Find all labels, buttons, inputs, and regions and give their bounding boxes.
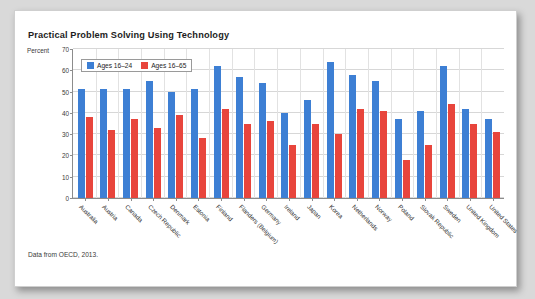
y-axis-tick-mark (70, 177, 73, 178)
y-axis-tick-label: 40 (62, 109, 69, 116)
y-axis-tick-mark (70, 198, 73, 199)
bar-group (436, 49, 459, 198)
bar-young[interactable] (123, 89, 130, 198)
bar-all[interactable] (312, 124, 319, 199)
bar-group (323, 49, 346, 198)
chart-card: Practical Problem Solving Using Technolo… (14, 10, 517, 287)
y-axis-tick-mark (70, 92, 73, 93)
x-axis-label-cell: Germany (254, 201, 277, 257)
x-axis-tick-label: Japan (306, 203, 323, 220)
screenshot-root: Practical Problem Solving Using Technolo… (0, 0, 535, 299)
legend-item-young[interactable]: Ages 16–24 (87, 62, 132, 69)
bar-group (459, 49, 482, 198)
bar-all[interactable] (267, 121, 274, 198)
legend-label-young: Ages 16–24 (97, 62, 132, 69)
x-axis-labels: AustraliaAustriaCanadaCzech RepublicDenm… (72, 201, 504, 257)
bar-group (391, 49, 414, 198)
bar-young[interactable] (395, 119, 402, 198)
bar-all[interactable] (425, 145, 432, 198)
bar-all[interactable] (176, 115, 183, 198)
x-axis-tick-label: United States (488, 203, 519, 234)
bar-group (300, 49, 323, 198)
x-axis-label-cell: Czech Republic (140, 201, 163, 257)
legend-swatch-icon-all (141, 62, 148, 69)
bar-all[interactable] (380, 111, 387, 198)
x-axis-label-cell: Ireland (277, 201, 300, 257)
bar-all[interactable] (335, 134, 342, 198)
x-axis-label-cell: Denmark (163, 201, 186, 257)
bar-young[interactable] (462, 109, 469, 198)
x-axis-label-cell: Australia (72, 201, 95, 257)
bar-all[interactable] (403, 160, 410, 198)
x-axis-label-cell: Netherlands (345, 201, 368, 257)
bar-young[interactable] (281, 113, 288, 198)
x-axis-label-cell: Austria (95, 201, 118, 257)
x-axis-label-cell: Poland (390, 201, 413, 257)
bar-all[interactable] (493, 132, 500, 198)
bar-all[interactable] (154, 128, 161, 198)
bar-all[interactable] (289, 145, 296, 198)
y-axis-tick-mark (70, 70, 73, 71)
bar-group (255, 49, 278, 198)
bar-all[interactable] (199, 138, 206, 198)
bar-young[interactable] (304, 100, 311, 198)
y-axis-tick-mark (70, 155, 73, 156)
bar-group (232, 49, 255, 198)
bar-group (278, 49, 301, 198)
bar-young[interactable] (417, 111, 424, 198)
bar-young[interactable] (236, 77, 243, 198)
x-axis-label-cell: Estonia (186, 201, 209, 257)
bar-young[interactable] (191, 89, 198, 198)
y-axis-tick-label: 50 (62, 88, 69, 95)
x-axis-label-cell: Korea (322, 201, 345, 257)
x-axis-label-cell: Finland (208, 201, 231, 257)
legend-item-all[interactable]: Ages 16–65 (141, 62, 186, 69)
y-axis-unit-label: Percent (27, 47, 49, 54)
y-axis-tick-label: 30 (62, 131, 69, 138)
x-axis-label-cell: Canada (117, 201, 140, 257)
x-axis-tick-label: Korea (328, 203, 345, 220)
source-note: Data from OECD, 2013. (28, 251, 98, 258)
y-axis-tick-label: 60 (62, 67, 69, 74)
bar-group (481, 49, 504, 198)
bar-all[interactable] (131, 119, 138, 198)
x-axis-label-cell: United States (481, 201, 504, 257)
chart-legend: Ages 16–24 Ages 16–65 (81, 59, 192, 72)
bar-young[interactable] (146, 81, 153, 198)
bar-young[interactable] (440, 66, 447, 198)
legend-label-all: Ages 16–65 (151, 62, 186, 69)
bar-group (413, 49, 436, 198)
chart-title: Practical Problem Solving Using Technolo… (28, 30, 229, 40)
bar-young[interactable] (259, 83, 266, 198)
bar-group (210, 49, 233, 198)
bar-young[interactable] (214, 66, 221, 198)
y-axis-tick-mark (70, 49, 73, 50)
bar-all[interactable] (448, 104, 455, 198)
bar-all[interactable] (357, 109, 364, 198)
x-axis-label-cell: Norway (368, 201, 391, 257)
y-axis-tick-label: 0 (65, 195, 69, 202)
bar-young[interactable] (78, 89, 85, 198)
y-axis-tick-label: 20 (62, 152, 69, 159)
bar-young[interactable] (327, 62, 334, 198)
y-axis-tick-mark (70, 113, 73, 114)
legend-swatch-icon-young (87, 62, 94, 69)
bar-young[interactable] (168, 92, 175, 198)
bar-all[interactable] (244, 124, 251, 199)
x-axis-label-cell: United Kingdom (458, 201, 481, 257)
x-axis-label-cell: Slovak Republic (413, 201, 436, 257)
bar-young[interactable] (349, 75, 356, 198)
bar-young[interactable] (485, 119, 492, 198)
bar-group (346, 49, 369, 198)
bar-all[interactable] (222, 109, 229, 198)
bar-young[interactable] (372, 81, 379, 198)
y-axis-tick-mark (70, 134, 73, 135)
y-axis-tick-label: 70 (62, 46, 69, 53)
x-axis-label-cell: Japan (299, 201, 322, 257)
x-axis-label-cell: Flanders (Belgium) (231, 201, 254, 257)
bar-young[interactable] (100, 89, 107, 198)
y-axis-tick-label: 10 (62, 173, 69, 180)
bar-all[interactable] (108, 130, 115, 198)
bar-all[interactable] (470, 124, 477, 199)
bar-all[interactable] (86, 117, 93, 198)
